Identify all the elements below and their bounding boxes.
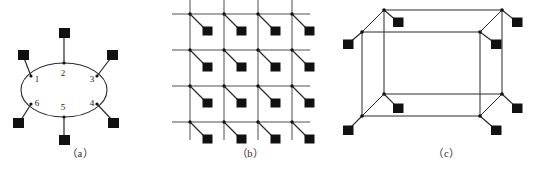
figure-root: 1 2 3 4 5 6 （a） （b） （c） bbox=[0, 0, 553, 170]
cube-node-square-back-bottom-right bbox=[512, 104, 523, 114]
mesh-node-1-2-vertex-dot bbox=[222, 12, 225, 15]
cube-edge-connector-bottom-right bbox=[480, 94, 502, 116]
ring-stub-3 bbox=[97, 59, 110, 76]
panel-b-diagram bbox=[160, 0, 340, 145]
ring-stub-6 bbox=[21, 104, 31, 120]
cube-vertex-dot-front-top-left bbox=[360, 30, 364, 34]
mesh-node-2-1-vertex-dot bbox=[188, 48, 191, 51]
ring-vertex-dot-3 bbox=[95, 74, 98, 77]
mesh-node-4-2-square bbox=[237, 135, 247, 144]
cube-vertex-dot-back-bottom-left bbox=[382, 92, 386, 96]
panel-c-diagram bbox=[340, 0, 553, 145]
cube-vertex-dots-group bbox=[360, 8, 504, 118]
mesh-node-3-1-square bbox=[203, 99, 213, 108]
cube-node-square-front-bottom-right bbox=[491, 126, 502, 136]
mesh-node-3-4-vertex-dot bbox=[290, 84, 293, 87]
cube-node-squares-group bbox=[343, 18, 523, 136]
cube-node-square-back-bottom-left bbox=[393, 104, 404, 114]
mesh-node-3-2-square bbox=[237, 99, 247, 108]
cube-edge-connector-bottom-left bbox=[362, 94, 384, 116]
mesh-node-3-3-vertex-dot bbox=[256, 84, 259, 87]
mesh-node-3-4-stub bbox=[292, 86, 306, 100]
ring-node-square-3 bbox=[107, 50, 118, 60]
ring-index-label-4: 4 bbox=[90, 98, 95, 108]
cube-vertex-dot-front-bottom-right bbox=[478, 114, 482, 118]
mesh-node-1-3-square bbox=[271, 27, 281, 36]
mesh-node-3-1-stub bbox=[190, 86, 204, 100]
cube-edges-group bbox=[362, 10, 502, 116]
mesh-node-2-4-stub bbox=[292, 50, 306, 64]
cube-stub-back-bottom-right bbox=[502, 94, 514, 105]
panel-a-caption: （a） bbox=[0, 145, 160, 160]
cube-stub-back-top-left bbox=[384, 10, 395, 19]
mesh-node-4-1-square bbox=[203, 135, 213, 144]
ring-node-square-2 bbox=[59, 28, 70, 38]
mesh-node-1-4-square bbox=[305, 27, 315, 36]
cube-vertex-dot-front-bottom-left bbox=[360, 114, 364, 118]
ring-stub-1 bbox=[24, 58, 31, 76]
mesh-node-2-3-square bbox=[271, 63, 281, 72]
cube-node-square-back-top-left bbox=[393, 18, 404, 28]
mesh-node-3-4-square bbox=[305, 99, 315, 108]
cube-node-square-front-top-left bbox=[343, 40, 354, 50]
cube-vertex-dot-front-top-right bbox=[478, 30, 482, 34]
mesh-node-1-3-stub bbox=[258, 14, 272, 28]
ring-vertex-dot-4 bbox=[95, 102, 98, 105]
ring-vertex-dot-2 bbox=[62, 61, 65, 64]
mesh-node-4-2-vertex-dot bbox=[222, 120, 225, 123]
mesh-node-3-2-vertex-dot bbox=[222, 84, 225, 87]
mesh-node-2-4-vertex-dot bbox=[290, 48, 293, 51]
cube-node-square-back-top-right bbox=[512, 18, 523, 28]
mesh-node-4-3-stub bbox=[258, 122, 272, 136]
ring-vertex-dot-5 bbox=[62, 115, 65, 118]
mesh-node-1-1-square bbox=[203, 27, 213, 36]
mesh-node-4-2-stub bbox=[224, 122, 238, 136]
panel-a-ring-topology: 1 2 3 4 5 6 （a） bbox=[0, 0, 160, 170]
mesh-node-3-2-stub bbox=[224, 86, 238, 100]
cube-node-square-front-top-right bbox=[491, 40, 502, 50]
cube-vertex-dot-back-top-right bbox=[500, 8, 504, 12]
mesh-node-1-4-vertex-dot bbox=[290, 12, 293, 15]
mesh-node-2-1-square bbox=[203, 63, 213, 72]
mesh-node-2-3-vertex-dot bbox=[256, 48, 259, 51]
ring-vertex-dot-6 bbox=[29, 102, 32, 105]
cube-stubs-group bbox=[351, 10, 514, 127]
mesh-node-2-2-stub bbox=[224, 50, 238, 64]
ring-stubs-group bbox=[21, 38, 111, 136]
ring-stub-4 bbox=[97, 104, 111, 119]
ring-node-squares-group bbox=[13, 28, 119, 145]
panel-a-diagram: 1 2 3 4 5 6 bbox=[0, 0, 160, 145]
cube-stub-back-bottom-left bbox=[384, 94, 395, 105]
mesh-node-4-1-vertex-dot bbox=[188, 120, 191, 123]
mesh-node-4-4-vertex-dot bbox=[290, 120, 293, 123]
mesh-node-4-3-square bbox=[271, 135, 281, 144]
mesh-node-1-3-vertex-dot bbox=[256, 12, 259, 15]
mesh-node-3-1-vertex-dot bbox=[188, 84, 191, 87]
mesh-node-2-1-stub bbox=[190, 50, 204, 64]
ring-index-label-3: 3 bbox=[90, 74, 95, 84]
cube-vertex-dot-back-top-left bbox=[382, 8, 386, 12]
cube-stub-front-top-right bbox=[480, 32, 492, 41]
ring-node-square-5 bbox=[59, 135, 70, 145]
ring-node-square-6 bbox=[13, 118, 24, 128]
mesh-node-3-3-stub bbox=[258, 86, 272, 100]
panel-c-cube-topology: （c） bbox=[340, 0, 553, 170]
cube-edge-connector-top-left bbox=[362, 10, 384, 32]
ring-index-labels-group: 1 2 3 4 5 6 bbox=[35, 68, 95, 112]
cube-stub-front-bottom-right bbox=[480, 116, 493, 127]
mesh-node-3-3-square bbox=[271, 99, 281, 108]
cube-node-square-front-bottom-left bbox=[343, 126, 354, 136]
panel-b-caption: （b） bbox=[160, 145, 340, 160]
mesh-node-4-3-vertex-dot bbox=[256, 120, 259, 123]
mesh-node-1-4-stub bbox=[292, 14, 306, 28]
mesh-node-1-2-square bbox=[237, 27, 247, 36]
mesh-node-4-4-stub bbox=[292, 122, 306, 136]
ring-index-label-2: 2 bbox=[61, 68, 66, 78]
ring-node-square-1 bbox=[18, 50, 29, 60]
cube-edge-connector-top-right bbox=[480, 10, 502, 32]
mesh-node-4-1-stub bbox=[190, 122, 204, 136]
mesh-node-2-3-stub bbox=[258, 50, 272, 64]
mesh-node-4-4-square bbox=[305, 135, 315, 144]
panel-c-caption: （c） bbox=[340, 145, 553, 160]
ring-index-label-1: 1 bbox=[35, 74, 40, 84]
